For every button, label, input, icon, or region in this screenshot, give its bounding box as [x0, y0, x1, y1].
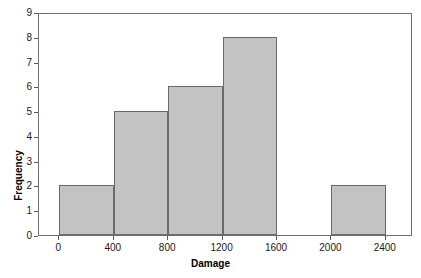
y-axis-tick: 9	[0, 13, 38, 14]
x-tick-mark	[330, 236, 331, 240]
y-tick-mark	[34, 211, 38, 212]
histogram-bar	[114, 111, 168, 235]
y-axis-title-wrap: Frequency	[4, 60, 20, 200]
x-tick-label: 400	[93, 242, 133, 253]
x-tick-mark	[58, 236, 59, 240]
y-tick-mark	[34, 137, 38, 138]
x-tick-mark	[167, 236, 168, 240]
x-tick-label: 1600	[256, 242, 296, 253]
plot-area	[39, 14, 411, 235]
y-tick-mark	[34, 63, 38, 64]
x-tick-label: 1200	[202, 242, 242, 253]
y-tick-mark	[34, 162, 38, 163]
x-tick-label: 0	[38, 242, 78, 253]
x-axis: 04008001200160020002400	[0, 236, 421, 260]
histogram-bar	[168, 86, 222, 235]
y-tick-mark	[34, 13, 38, 14]
x-tick-mark	[113, 236, 114, 240]
x-tick-mark	[276, 236, 277, 240]
histogram-bar	[59, 185, 113, 235]
x-tick-mark	[385, 236, 386, 240]
x-tick-label: 2400	[365, 242, 405, 253]
histogram-bar	[223, 37, 277, 235]
histogram-figure: 0123456789 04008001200160020002400 Frequ…	[0, 0, 421, 278]
x-axis-title: Damage	[0, 258, 421, 269]
histogram-bar	[331, 185, 385, 235]
y-axis-tick: 8	[0, 38, 38, 39]
y-tick-mark	[34, 186, 38, 187]
y-tick-label: 8	[8, 30, 32, 46]
y-tick-mark	[34, 38, 38, 39]
x-tick-label: 2000	[310, 242, 350, 253]
y-tick-label: 9	[8, 5, 32, 21]
plot-frame	[38, 13, 412, 236]
x-tick-mark	[222, 236, 223, 240]
x-tick-label: 800	[147, 242, 187, 253]
y-tick-mark	[34, 112, 38, 113]
y-tick-mark	[34, 87, 38, 88]
y-axis-title: Frequency	[13, 126, 24, 226]
